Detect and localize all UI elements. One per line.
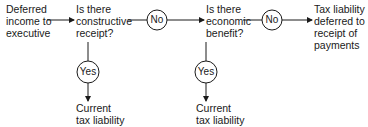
current-line: Current bbox=[76, 102, 124, 114]
yes-label-2: Yes bbox=[194, 66, 218, 78]
outcome-tax-deferred: Tax liability deferred to receipt of pay… bbox=[314, 3, 365, 51]
no-label-1: No bbox=[145, 14, 169, 26]
outcome-current-tax-1: Current tax liability bbox=[76, 102, 124, 126]
q2-line: economic bbox=[206, 15, 251, 27]
deferred-line: payments bbox=[314, 39, 365, 51]
q2-line: benefit? bbox=[206, 27, 251, 39]
yes-label-1: Yes bbox=[76, 66, 100, 78]
start-line: income to bbox=[6, 15, 52, 27]
question-constructive-receipt: Is there constructive receipt? bbox=[76, 3, 132, 39]
start-line: Deferred bbox=[6, 3, 52, 15]
start-line: executive bbox=[6, 27, 52, 39]
deferred-line: receipt of bbox=[314, 27, 365, 39]
q1-line: constructive bbox=[76, 15, 132, 27]
q1-line: receipt? bbox=[76, 27, 132, 39]
deferred-line: Tax liability bbox=[314, 3, 365, 15]
current-line: tax liability bbox=[76, 114, 124, 126]
deferred-line: deferred to bbox=[314, 15, 365, 27]
no-label-2: No bbox=[260, 14, 284, 26]
outcome-current-tax-2: Current tax liability bbox=[196, 102, 244, 126]
flowchart-connectors bbox=[0, 0, 368, 127]
current-line: Current bbox=[196, 102, 244, 114]
current-line: tax liability bbox=[196, 114, 244, 126]
q1-line: Is there bbox=[76, 3, 132, 15]
q2-line: Is there bbox=[206, 3, 251, 15]
start-node: Deferred income to executive bbox=[6, 3, 52, 39]
question-economic-benefit: Is there economic benefit? bbox=[206, 3, 251, 39]
